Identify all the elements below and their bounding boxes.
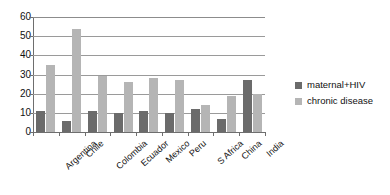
y-axis-tick-label: 0 — [5, 127, 31, 137]
bar-group — [59, 17, 85, 132]
x-axis-category-label: China — [240, 139, 263, 161]
y-axis-tick-mark — [29, 75, 33, 76]
chart-legend: maternal+HIVchronic disease — [295, 80, 390, 112]
y-axis-tick-label: 30 — [5, 70, 31, 80]
bar — [114, 113, 123, 132]
y-axis-tick-mark — [29, 36, 33, 37]
y-axis-tick-label: 40 — [5, 50, 31, 60]
bar — [139, 111, 148, 132]
x-axis-category-label: Peru — [187, 139, 207, 158]
y-axis: 0102030405060 — [0, 0, 31, 195]
x-axis-tick-mark — [136, 132, 137, 136]
x-axis-category-label: India — [265, 139, 286, 159]
bar-group — [188, 17, 214, 132]
plot-area — [33, 17, 265, 132]
bar — [191, 109, 200, 132]
legend-item[interactable]: maternal+HIV — [295, 80, 390, 90]
y-axis-tick-label: 20 — [5, 89, 31, 99]
bar — [62, 121, 71, 133]
y-axis-tick-mark — [29, 113, 33, 114]
bar — [243, 80, 252, 132]
x-axis-tick-mark — [33, 132, 34, 136]
bar — [46, 65, 55, 132]
legend-label: maternal+HIV — [307, 80, 365, 90]
bar-chart: 0102030405060 ArgentinaChileColombiaEcua… — [0, 0, 390, 195]
bar-group — [162, 17, 188, 132]
y-axis-tick-mark — [29, 55, 33, 56]
bar-group — [33, 17, 59, 132]
bar — [201, 105, 210, 132]
y-axis-tick-label: 10 — [5, 108, 31, 118]
bar — [149, 78, 158, 132]
y-axis-tick-label: 50 — [5, 31, 31, 41]
bar — [217, 119, 226, 132]
bar — [88, 111, 97, 132]
bar — [124, 82, 133, 132]
legend-label: chronic disease — [307, 96, 373, 106]
x-axis-tick-mark — [85, 132, 86, 136]
x-axis-tick-mark — [59, 132, 60, 136]
bar — [227, 96, 236, 132]
bar-group — [110, 17, 136, 132]
y-axis-tick-mark — [29, 17, 33, 18]
bar-group — [213, 17, 239, 132]
legend-swatch-icon — [295, 98, 302, 105]
x-axis-line — [33, 132, 266, 133]
y-axis-tick-mark — [29, 94, 33, 95]
x-axis-tick-mark — [162, 132, 163, 136]
x-axis-tick-mark — [188, 132, 189, 136]
bar — [98, 76, 107, 132]
x-axis-tick-mark — [239, 132, 240, 136]
bar-group — [136, 17, 162, 132]
bar — [36, 111, 45, 132]
x-axis-tick-mark — [213, 132, 214, 136]
bar — [72, 29, 81, 133]
bar-group — [239, 17, 265, 132]
x-axis-tick-mark — [110, 132, 111, 136]
legend-item[interactable]: chronic disease — [295, 96, 390, 106]
y-axis-tick-label: 60 — [5, 12, 31, 22]
legend-swatch-icon — [295, 82, 302, 89]
bar-group — [85, 17, 111, 132]
bar — [175, 80, 184, 132]
x-axis-tick-mark — [265, 132, 266, 136]
bar — [253, 94, 262, 132]
bar — [165, 113, 174, 132]
